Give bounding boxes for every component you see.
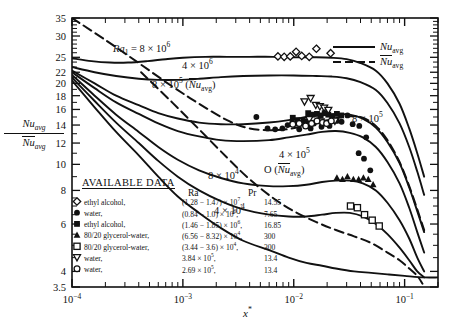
marker-circle-filled <box>272 126 278 132</box>
legend-ra: (1.46 − 1.85) × 106, <box>182 219 264 230</box>
marker-triangle-filled <box>344 173 351 179</box>
y-tick-label: 35 <box>56 13 67 24</box>
legend-pr: 13.4 <box>264 265 277 274</box>
available-data-row: 80/20 glycerol-water,(6.56 − 8.32) × 104… <box>84 230 275 241</box>
marker-circle-open <box>328 118 334 124</box>
line-key-solid-label: Nuavg <box>380 41 403 55</box>
y-tick-label: 10 <box>56 159 67 170</box>
line-key <box>333 47 375 62</box>
marker-circle-open <box>290 121 296 127</box>
marker-triangle-filled <box>365 176 372 182</box>
y-tick-label: 8 <box>61 185 66 196</box>
y-tick-label: 22 <box>56 67 67 78</box>
marker-circle-filled <box>296 126 302 132</box>
legend-fluid: water, <box>84 265 182 274</box>
legend-fluid: 80/20 glycerol-water, <box>84 243 182 252</box>
x-tick-label: 10−4 <box>63 292 82 306</box>
annotation-8e5-bar: 8 × 105 (Nuavg) <box>152 76 216 93</box>
x-tick-label-text: 10−3 <box>174 292 193 306</box>
legend-pr: 16.85 <box>264 220 281 229</box>
marker-circle-open <box>303 123 309 129</box>
marker-triangle-down-open <box>301 99 308 105</box>
legend-pr: 13.4 <box>264 254 277 263</box>
y-tick-label: 3.5 <box>53 282 66 293</box>
marker-circle-filled <box>253 114 259 120</box>
annotation-4e5: 4 × 105 <box>279 146 310 160</box>
y-axis-title: NuavgNuavg <box>4 118 64 151</box>
available-data-row: ethyl alcohol,(1.46 − 1.85) × 106,16.85 <box>84 219 281 230</box>
marker-triangle-filled <box>350 176 357 182</box>
marker-square-open <box>369 217 375 223</box>
marker-circle-open <box>314 118 320 124</box>
x-tick-labels: 10−410−310−210−1 <box>63 292 414 306</box>
available-data-row: 80/20 glycerol-water,(3.44 − 3.6) × 104,… <box>84 241 275 252</box>
marker-triangle-filled <box>360 174 367 180</box>
y-tick-labels: 353025222018161412108643.5 <box>53 13 67 293</box>
marker-circle-filled <box>356 150 362 156</box>
marker-diamond-open <box>306 53 313 60</box>
x-tick-label-text: 10−1 <box>395 292 414 306</box>
x-tick-label-text: 10−2 <box>285 292 304 306</box>
y-axis-numerator: Nuavg <box>4 118 64 134</box>
available-data-markers <box>73 198 80 272</box>
legend-ra: (3.44 − 3.6) × 104, <box>182 241 264 252</box>
available-data-title: AVAILABLE DATA <box>82 177 175 188</box>
legend-ra: (0.84 − 1.0) × 106, <box>182 208 264 219</box>
legend-pr: 14.55 <box>264 198 281 207</box>
marker-circle-filled <box>361 156 367 162</box>
available-data-row: water,(0.84 − 1.0) × 106,7.65 <box>84 208 277 219</box>
annotation-4e6: 4 × 106 <box>182 57 213 71</box>
y-axis-denominator: Nuavg <box>4 134 64 151</box>
legend-pr: 300 <box>264 243 275 252</box>
annotation-8e4: 8 × 104 <box>208 167 239 181</box>
marker-diamond-open <box>327 49 334 56</box>
line-key-dashed-label: Nuavg <box>380 55 403 70</box>
data-series-square-open <box>347 203 382 229</box>
annotation-ra1: Ra1 = 8 × 106 <box>113 40 170 57</box>
y-tick-label: 18 <box>56 91 67 102</box>
marker-triangle-down-open <box>307 96 314 102</box>
y-tick-label: 25 <box>56 52 67 63</box>
annotation-8e5: 8 × 105 <box>352 110 383 124</box>
marker-square-open <box>361 212 367 218</box>
legend-fluid: ethyl alcohol, <box>84 198 182 207</box>
marker-square-filled <box>338 113 344 119</box>
marker-square-open <box>376 223 382 229</box>
legend-fluid: ethyl alcohol, <box>84 220 182 229</box>
x-tick-label-text: 10−4 <box>63 292 82 306</box>
legend-fluid: 80/20 glycerol-water, <box>84 231 182 240</box>
legend-ra: (1.28 − 1.47) × 107, <box>182 196 264 207</box>
legend-ra: 2.69 × 105, <box>182 264 264 275</box>
y-tick-label: 20 <box>56 78 67 89</box>
marker-circle-filled <box>345 113 351 119</box>
marker-circle-filled <box>265 126 271 132</box>
x-tick-label: 10−3 <box>174 292 193 306</box>
available-data-row: ethyl alcohol,(1.28 − 1.47) × 107,14.55 <box>84 196 281 207</box>
marker-square-open <box>74 243 80 249</box>
y-tick-label: 30 <box>56 31 67 42</box>
figure-container: 353025222018161412108643.510−410−310−210… <box>0 0 455 328</box>
legend-ra: (6.56 − 8.32) × 104, <box>182 230 264 241</box>
marker-diamond-open <box>287 53 294 60</box>
annotation-o-nu-bar: O (Nuavg) <box>264 163 304 178</box>
marker-circle-filled <box>356 123 362 129</box>
x-tick-label: 10−2 <box>285 292 304 306</box>
marker-circle-filled <box>367 167 373 173</box>
legend-pr: 7.65 <box>264 209 277 218</box>
marker-triangle-filled <box>333 174 340 180</box>
data-series-triangle-filled <box>333 173 376 187</box>
legend-fluid: water, <box>84 209 182 218</box>
marker-square-open <box>347 203 353 209</box>
legend-pr: 300 <box>264 231 275 240</box>
legend-ra: 3.84 × 105, <box>182 252 264 263</box>
marker-circle-open <box>74 266 80 272</box>
marker-circle-open <box>296 120 302 126</box>
marker-square-open <box>354 205 360 211</box>
marker-circle-filled <box>339 119 345 125</box>
marker-square-filled <box>74 221 80 227</box>
marker-diamond-open <box>313 45 320 52</box>
marker-triangle-filled <box>370 181 377 187</box>
y-tick-label: 6 <box>61 219 66 230</box>
y-tick-label: 16 <box>56 104 67 115</box>
marker-circle-filled <box>279 126 285 132</box>
